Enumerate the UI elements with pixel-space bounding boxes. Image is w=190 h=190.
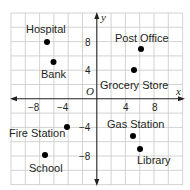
point-bank <box>51 59 57 65</box>
tick-y-neg4: −4 <box>79 122 91 133</box>
label-gas-station: Gas Station <box>107 118 164 130</box>
label-school: School <box>29 162 63 174</box>
tick-x-neg4: −4 <box>57 102 69 113</box>
label-library: Library <box>137 154 171 166</box>
x-axis-arrow-right-icon <box>178 96 185 101</box>
label-post-office: Post Office <box>115 32 169 44</box>
tick-y-8: 8 <box>85 37 91 48</box>
label-hospital: Hospital <box>26 23 66 35</box>
tick-y-neg8: −8 <box>79 151 91 162</box>
tick-x-4: 4 <box>123 102 129 113</box>
x-axis-label: x <box>175 85 181 97</box>
point-post-office <box>138 46 144 52</box>
point-grocery-store <box>131 67 137 73</box>
origin-label: O <box>86 85 94 97</box>
tick-y-4: 4 <box>85 65 91 76</box>
tick-x-8: 8 <box>152 102 158 113</box>
label-fire-station: Fire Station <box>9 127 65 139</box>
coordinate-plane: y x O −8 −4 4 8 8 4 −4 −8 Hospital Bank … <box>0 0 190 190</box>
label-bank: Bank <box>41 68 67 80</box>
point-school <box>42 152 48 158</box>
label-grocery-store: Grocery Store <box>100 79 168 91</box>
point-hospital <box>44 39 50 45</box>
tick-x-neg8: −8 <box>28 102 40 113</box>
point-library <box>137 146 143 152</box>
point-gas-station <box>130 133 136 139</box>
y-axis-label: y <box>100 11 106 23</box>
